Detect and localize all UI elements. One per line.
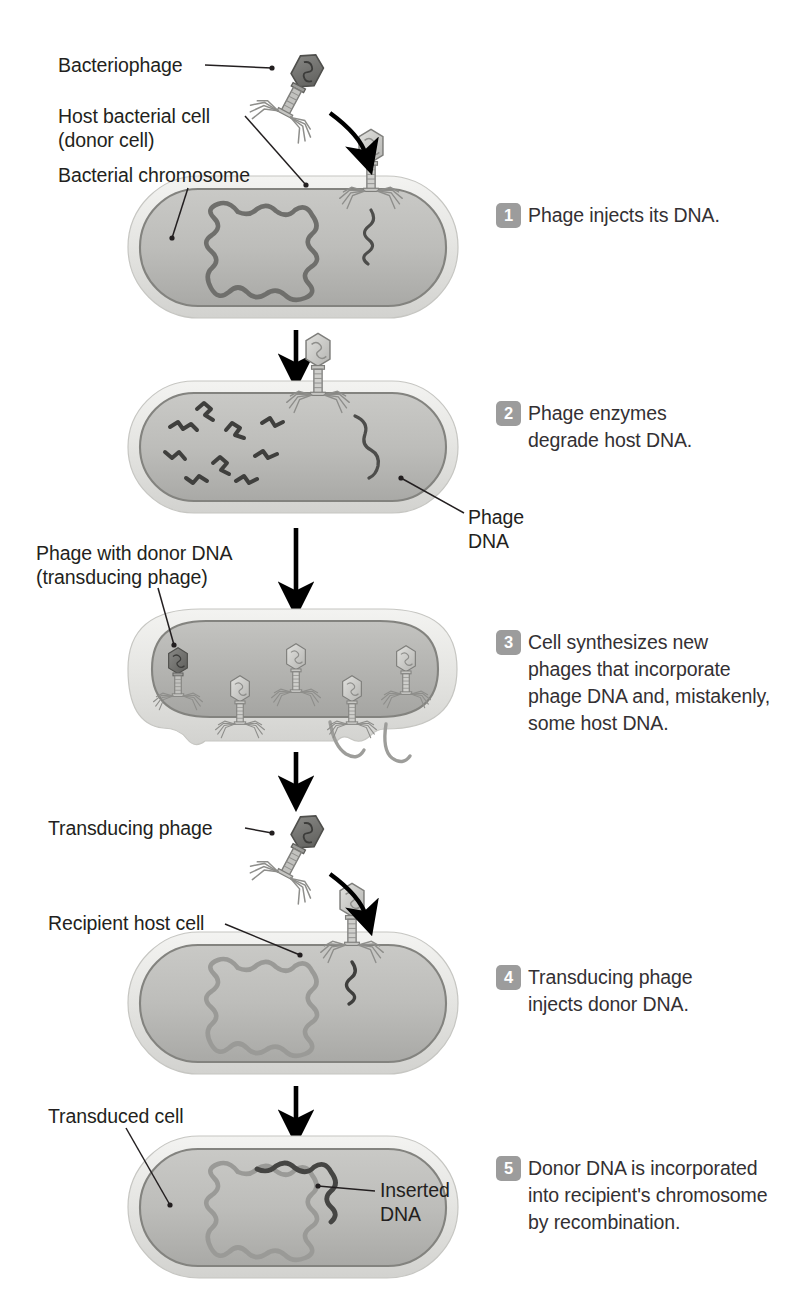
label-transducing-phage-paren: (transducing phage)	[36, 565, 208, 590]
step-text-3-line-4: some host DNA.	[528, 710, 669, 737]
label-inserted-dna-2: DNA	[380, 1202, 421, 1227]
step-text-2-line-1: Phage enzymes	[528, 400, 667, 427]
step-text-2-line-2: degrade host DNA.	[528, 427, 692, 454]
label-inserted-dna: Inserted	[380, 1178, 450, 1203]
step-text-4-line-1: Transducing phage	[528, 964, 693, 991]
step-text-5-line-2: into recipient's chromosome	[528, 1182, 767, 1209]
step-text-3-line-3: phage DNA and, mistakenly,	[528, 683, 770, 710]
label-bacterial-chromosome: Bacterial chromosome	[58, 163, 250, 188]
label-phage-dna-2: DNA	[468, 529, 509, 554]
step-text-3-line-1: Cell synthesizes new	[528, 629, 708, 656]
step-badge-2: 2	[496, 401, 521, 426]
label-host-bacterial-cell: Host bacterial cell	[58, 104, 210, 129]
step-text-3-line-2: phages that incorporate	[528, 656, 731, 683]
label-bacteriophage: Bacteriophage	[58, 53, 182, 78]
step-text-1: Phage injects its DNA.	[528, 202, 720, 229]
label-phage-dna: Phage	[468, 505, 524, 530]
label-recipient-host-cell: Recipient host cell	[48, 911, 204, 936]
step-badge-5: 5	[496, 1156, 521, 1181]
step-text-4-line-2: injects donor DNA.	[528, 991, 689, 1018]
step-badge-1: 1	[496, 203, 521, 228]
step-text-5-line-3: by recombination.	[528, 1209, 680, 1236]
label-transduced-cell: Transduced cell	[48, 1104, 183, 1129]
label-host-bacterial-cell-2: (donor cell)	[58, 128, 154, 153]
panel-step-3	[128, 588, 457, 762]
transduction-diagram: Bacteriophage Host bacterial cell (donor…	[0, 0, 790, 1316]
step-text-5-line-1: Donor DNA is incorporated	[528, 1155, 757, 1182]
panel-step-4	[128, 800, 458, 1074]
label-phage-with-donor-dna: Phage with donor DNA	[36, 541, 232, 566]
step-badge-3: 3	[496, 630, 521, 655]
label-transducing-phage: Transducing phage	[48, 816, 213, 841]
step-badge-4: 4	[496, 965, 521, 990]
